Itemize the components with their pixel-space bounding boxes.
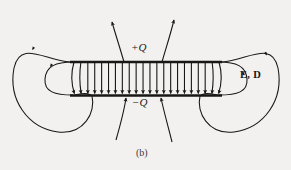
label-field-vectors: E, D — [240, 70, 261, 81]
capacitor-plates — [70, 62, 222, 96]
capacitor-field-figure: +Q −Q E, D (b) — [0, 0, 291, 170]
uniform-field-arrows — [72, 62, 222, 94]
label-positive-charge: +Q — [131, 42, 146, 53]
field-arrow — [219, 62, 222, 94]
return-field-loops — [13, 47, 279, 132]
label-negative-charge: −Q — [132, 97, 147, 108]
field-line-diagram — [0, 0, 291, 170]
field-arrow — [212, 62, 213, 94]
left-inner-loop — [45, 62, 73, 95]
field-arrow — [72, 62, 75, 94]
field-arrow — [80, 62, 81, 94]
figure-caption: (b) — [136, 148, 148, 158]
